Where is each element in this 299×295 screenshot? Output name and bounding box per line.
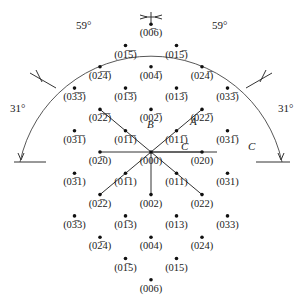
spot-dot xyxy=(149,108,153,112)
spot-label: (031) xyxy=(216,176,239,188)
diffraction-spot: (01̅5) xyxy=(114,257,137,274)
spot-dot xyxy=(98,108,102,112)
spot-label: (02̅4̅) xyxy=(89,70,112,82)
spot-label: (01̅3̅) xyxy=(114,91,137,103)
spot-dot xyxy=(124,129,128,133)
diffraction-spot: (004̅) xyxy=(140,65,163,82)
diffraction-spot: (024̅) xyxy=(191,65,214,82)
spot-dot xyxy=(149,150,153,154)
diffraction-spot: (03̅3̅) xyxy=(63,86,86,103)
spot-dot xyxy=(200,235,204,239)
diffraction-spot: (01̅1) xyxy=(114,172,137,189)
diffraction-spot: (031) xyxy=(216,172,239,189)
spot-label: (004) xyxy=(140,240,163,252)
spot-dot xyxy=(73,86,77,90)
spot-label: (013) xyxy=(165,219,188,231)
diffraction-spot: (01̅3) xyxy=(114,214,137,231)
diffraction-spot: (03̅1̅) xyxy=(63,129,86,146)
diffraction-spot: (020) xyxy=(191,150,214,167)
angle-label-right: 31° xyxy=(278,102,293,114)
diffraction-spots: (00̅6)(01̅5̅)(015̅)(02̅4̅)(004̅)(024̅)(0… xyxy=(63,22,239,294)
spot-label: (004̅) xyxy=(140,70,163,82)
spot-dot xyxy=(149,22,153,26)
spot-dot xyxy=(98,193,102,197)
spot-label: (022) xyxy=(191,198,214,210)
spot-label: (024) xyxy=(191,240,214,252)
diffraction-spot: (00̅6) xyxy=(140,22,163,39)
diffraction-spot: (013̅) xyxy=(165,86,188,103)
spot-label: (015̅) xyxy=(165,49,188,61)
spot-label: (02̅2) xyxy=(89,198,112,210)
angle-label-top-left: 59° xyxy=(76,19,91,31)
spot-label: (033̅) xyxy=(216,91,239,103)
spot-dot xyxy=(98,65,102,69)
diffraction-spot: (013) xyxy=(165,214,188,231)
diffraction-spot: (011) xyxy=(165,172,188,189)
diffraction-spot: (02̅4) xyxy=(89,235,112,252)
diffraction-spot: (015̅) xyxy=(165,44,188,61)
diffraction-spot: (004) xyxy=(140,235,163,252)
spot-dot xyxy=(175,214,179,218)
diffraction-spot: (024) xyxy=(191,235,214,252)
spot-dot xyxy=(98,150,102,154)
spot-label: (03̅1̅) xyxy=(63,134,86,146)
spot-dot xyxy=(175,44,179,48)
diffraction-spot: (02̅2) xyxy=(89,193,112,210)
spot-dot xyxy=(124,214,128,218)
angle-label-top-right: 59° xyxy=(212,19,227,31)
diffraction-spot: (02̅4̅) xyxy=(89,65,112,82)
spot-dot xyxy=(175,172,179,176)
diffraction-pattern: 59° 59° 31° 31° (00̅6)(01̅5̅)(015̅)(02̅4… xyxy=(0,0,299,295)
spot-label: (013̅) xyxy=(165,91,188,103)
diffraction-spot: (02̅0) xyxy=(89,150,112,167)
spot-dot xyxy=(175,86,179,90)
spot-dot xyxy=(149,193,153,197)
spot-dot xyxy=(124,44,128,48)
spot-dot xyxy=(226,129,230,133)
spot-label: (02̅2̅) xyxy=(89,112,112,124)
spot-label: (033) xyxy=(216,219,239,231)
spot-label: (01̅1) xyxy=(114,176,137,188)
spot-dot xyxy=(200,108,204,112)
spot-dot xyxy=(226,214,230,218)
diffraction-spot: (01̅5̅) xyxy=(114,44,137,61)
spot-dot xyxy=(73,214,77,218)
spot-dot xyxy=(149,235,153,239)
spot-dot xyxy=(200,150,204,154)
diffraction-spot: (033̅) xyxy=(216,86,239,103)
diffraction-spot: (015) xyxy=(165,257,188,274)
angle-label-left: 31° xyxy=(10,102,25,114)
spot-dot xyxy=(124,257,128,261)
spot-dot xyxy=(226,172,230,176)
axis-label-c-outer: C xyxy=(248,140,256,152)
spot-dot xyxy=(124,86,128,90)
diffraction-spot: (002) xyxy=(140,193,163,210)
spot-dot xyxy=(98,235,102,239)
axis-label-b: B xyxy=(147,118,154,130)
spot-label: (011) xyxy=(165,176,188,188)
diffraction-spot: (03̅1) xyxy=(63,172,86,189)
diffraction-spot: (000) xyxy=(140,150,163,167)
spot-label: (01̅5) xyxy=(114,262,137,274)
spot-label: (024̅) xyxy=(191,70,214,82)
spot-label: (006) xyxy=(140,283,163,295)
spot-label: (000) xyxy=(140,155,163,167)
diffraction-spot: (02̅2̅) xyxy=(89,108,112,125)
diffraction-spot: (031̅) xyxy=(216,129,239,146)
spot-dot xyxy=(200,65,204,69)
spot-label: (01̅1̅) xyxy=(114,134,137,146)
spot-label: (020) xyxy=(191,155,214,167)
spot-label: (031̅) xyxy=(216,134,239,146)
axis-label-c-inner: C xyxy=(181,140,189,152)
spot-dot xyxy=(73,172,77,176)
spot-label: (03̅1) xyxy=(63,176,86,188)
spot-label: (015) xyxy=(165,262,188,274)
spot-dot xyxy=(149,65,153,69)
spot-label: (01̅5̅) xyxy=(114,49,137,61)
diffraction-spot: (022) xyxy=(191,193,214,210)
diffraction-spot: (01̅1̅) xyxy=(114,129,137,146)
spot-label: (02̅0) xyxy=(89,155,112,167)
spot-label: (02̅4) xyxy=(89,240,112,252)
diffraction-spot: (03̅3) xyxy=(63,214,86,231)
axis-label-a: A xyxy=(189,115,197,127)
